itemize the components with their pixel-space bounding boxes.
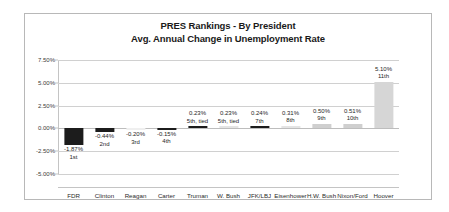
- category-axis: FDRClintonReaganCarterTrumanW. BushJFK/L…: [58, 189, 399, 203]
- bar-slot: 0.51%10th: [337, 60, 368, 174]
- y-axis-tick-label: 5.00%: [38, 80, 55, 86]
- bar-slot: 0.50%9th: [306, 60, 337, 174]
- bar-value-label: -0.44%: [95, 133, 114, 141]
- category-label: JFK/LBJ: [248, 192, 271, 199]
- y-axis-tick-label: -5.00%: [36, 171, 55, 177]
- bar[interactable]: [343, 124, 362, 129]
- bar-data-label: 0.51%10th: [344, 108, 361, 123]
- bar-slot: 0.23%5th, tied: [213, 60, 244, 174]
- chart-title: PRES Rankings - By President: [25, 20, 431, 33]
- category-label: FDR: [67, 192, 80, 199]
- bar-rank-label: 7th: [251, 118, 268, 126]
- bar-rank-label: 2nd: [95, 141, 114, 149]
- bar-data-label: -0.44%2nd: [95, 133, 114, 148]
- bar-value-label: 0.23%: [187, 110, 208, 118]
- bar-data-label: 0.23%5th, tied: [218, 110, 239, 125]
- bar[interactable]: [281, 126, 300, 129]
- bar-rank-label: 11th: [375, 73, 392, 81]
- bar-data-label: -0.15%4th: [157, 131, 176, 146]
- bar-data-label: 0.23%5th, tied: [187, 110, 208, 125]
- y-axis-tick-label: 7.50%: [38, 57, 55, 63]
- bar-data-label: 5.10%11th: [375, 66, 392, 81]
- bar-data-label: -1.87%1st: [64, 146, 83, 161]
- plot-area: 7.50%5.00%2.50%0.00%-2.50%-5.00%-1.87%1s…: [58, 60, 399, 174]
- bar-value-label: -0.20%: [126, 131, 145, 139]
- bar-slot: 0.31%8th: [275, 60, 306, 174]
- bar-rank-label: 5th, tied: [187, 118, 208, 126]
- category-label: Nixon/Ford: [337, 192, 367, 199]
- chart-subtitle: Avg. Annual Change in Unemployment Rate: [25, 33, 431, 46]
- bar[interactable]: [157, 128, 176, 129]
- category-label: Carter: [158, 192, 175, 199]
- bar-slot: 0.24%7th: [244, 60, 275, 174]
- y-axis-tick-label: -2.50%: [36, 148, 55, 154]
- bar-value-label: 0.50%: [313, 108, 330, 116]
- category-label: Hoover: [374, 192, 394, 199]
- bar-rank-label: 1st: [64, 154, 83, 162]
- category-label: W. Bush: [217, 192, 240, 199]
- category-label: Reagan: [125, 192, 147, 199]
- y-axis-tick-label: 2.50%: [38, 103, 55, 109]
- bar-value-label: 0.24%: [251, 110, 268, 118]
- bar-data-label: -0.20%3rd: [126, 131, 145, 146]
- bar-value-label: -1.87%: [64, 146, 83, 154]
- bar-rank-label: 5th, tied: [218, 118, 239, 126]
- chart-title-block: PRES Rankings - By President Avg. Annual…: [25, 20, 431, 45]
- bar[interactable]: [374, 82, 393, 129]
- bar-slot: -1.87%1st: [58, 60, 89, 174]
- bar-rank-label: 3rd: [126, 139, 145, 147]
- bar-value-label: 0.51%: [344, 108, 361, 116]
- category-label: H.W. Bush: [307, 192, 336, 199]
- bar-data-label: 0.31%8th: [282, 110, 299, 125]
- category-label: Truman: [187, 192, 208, 199]
- bar-rank-label: 9th: [313, 115, 330, 123]
- bar[interactable]: [250, 126, 269, 128]
- bar[interactable]: [64, 128, 83, 145]
- bar-slot: 5.10%11th: [368, 60, 399, 174]
- category-axis-line: [58, 187, 399, 188]
- bar-slot: -0.20%3rd: [120, 60, 151, 174]
- category-label: Eisenhower: [274, 192, 306, 199]
- category-label: Clinton: [95, 192, 114, 199]
- bar-slot: -0.15%4th: [151, 60, 182, 174]
- bar[interactable]: [126, 128, 145, 130]
- bar-value-label: 0.23%: [218, 110, 239, 118]
- bar[interactable]: [219, 126, 238, 128]
- bar-value-label: 5.10%: [375, 66, 392, 74]
- bar-data-label: 0.50%9th: [313, 108, 330, 123]
- chart-frame: PRES Rankings - By President Avg. Annual…: [24, 13, 432, 200]
- bar-rank-label: 10th: [344, 115, 361, 123]
- bar-value-label: -0.15%: [157, 131, 176, 139]
- bar-data-label: 0.24%7th: [251, 110, 268, 125]
- bar[interactable]: [188, 126, 207, 128]
- bar-value-label: 0.31%: [282, 110, 299, 118]
- bar-slot: -0.44%2nd: [89, 60, 120, 174]
- bar[interactable]: [312, 124, 331, 129]
- bar[interactable]: [95, 128, 114, 132]
- bar-rank-label: 8th: [282, 117, 299, 125]
- y-axis-tick-label: 0.00%: [38, 125, 55, 131]
- bar-slot: 0.23%5th, tied: [182, 60, 213, 174]
- bar-rank-label: 4th: [157, 138, 176, 146]
- gridline: [58, 174, 399, 175]
